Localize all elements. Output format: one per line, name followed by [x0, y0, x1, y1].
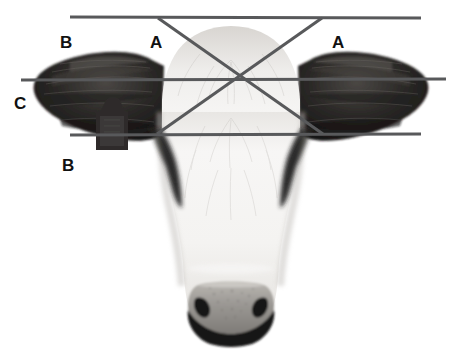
label-c-left: C — [14, 95, 26, 112]
measurement-label-layer: BAACB — [0, 0, 461, 356]
figure-root: BAACB — [0, 0, 461, 356]
label-b-bottom-left: B — [62, 157, 74, 174]
label-b-top-left: B — [60, 34, 72, 51]
label-a-right: A — [332, 34, 344, 51]
label-a-left: A — [150, 34, 162, 51]
